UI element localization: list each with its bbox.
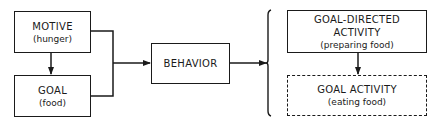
goal-directed-activity-box: GOAL-DIRECTED ACTIVITY (preparing food) xyxy=(287,10,427,53)
bracket xyxy=(266,10,271,116)
merge-connector xyxy=(90,31,113,96)
goal-directed-title-line1: GOAL-DIRECTED xyxy=(314,13,400,26)
goal-box: GOAL (food) xyxy=(14,75,91,117)
motive-title: MOTIVE xyxy=(32,20,73,33)
goal-subtitle: (food) xyxy=(39,97,66,109)
motive-subtitle: (hunger) xyxy=(33,33,72,45)
goal-directed-title-line2: ACTIVITY xyxy=(333,26,380,39)
goal-activity-subtitle: (eating food) xyxy=(328,96,386,108)
goal-title: GOAL xyxy=(38,84,67,97)
behavior-title: BEHAVIOR xyxy=(164,57,218,70)
goal-activity-title: GOAL ACTIVITY xyxy=(317,83,397,96)
goal-directed-subtitle: (preparing food) xyxy=(320,39,393,51)
goal-activity-box: GOAL ACTIVITY (eating food) xyxy=(287,75,427,116)
motive-box: MOTIVE (hunger) xyxy=(14,11,91,53)
behavior-box: BEHAVIOR xyxy=(151,43,230,84)
